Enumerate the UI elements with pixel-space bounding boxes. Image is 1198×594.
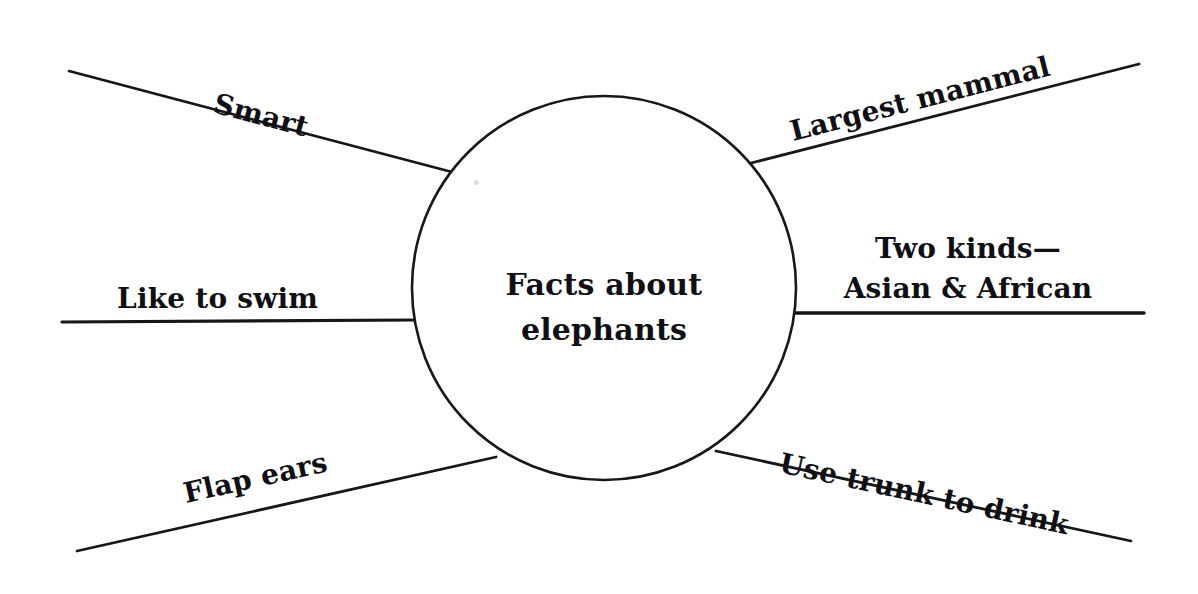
branch-label-two-kinds-line2: Asian & African <box>843 272 1093 305</box>
web-diagram: Facts about elephants Smart Like to swim… <box>0 0 1198 594</box>
hub-label-line1: Facts about <box>506 267 703 302</box>
branch-label-use-trunk-to-drink: Use trunk to drink <box>777 447 1073 542</box>
spoke-line-like-to-swim <box>62 320 414 322</box>
hub-label-line2: elephants <box>521 312 687 347</box>
branch-label-smart: Smart <box>210 87 312 144</box>
branch-label-two-kinds-line1: Two kinds— <box>875 232 1061 265</box>
branch-label-like-to-swim: Like to swim <box>117 282 318 315</box>
diagram-canvas: Facts about elephants Smart Like to swim… <box>0 0 1198 594</box>
paper-speck <box>474 180 479 185</box>
branch-label-largest-mammal: Largest mammal <box>787 50 1054 148</box>
